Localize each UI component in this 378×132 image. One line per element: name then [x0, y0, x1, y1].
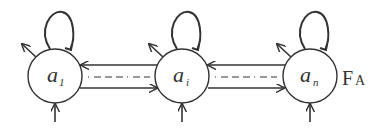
self-loop-arrow-icon	[172, 12, 200, 50]
transitions-ai-an	[208, 65, 285, 88]
fa-main: F	[342, 67, 353, 89]
self-loop-arrow-icon	[300, 12, 328, 50]
arrowhead-icon	[320, 44, 327, 50]
node-label: a	[47, 62, 58, 87]
arrowhead-icon	[65, 44, 72, 50]
node-subscript: i	[186, 76, 189, 88]
fa-diagram: a 1 a i a n	[0, 0, 378, 132]
exit-arrow-icon	[277, 44, 291, 57]
arrowhead-icon	[192, 44, 199, 50]
node-ai: a i	[149, 12, 209, 122]
node-label: a	[300, 62, 311, 87]
exit-arrow-icon	[22, 44, 36, 57]
node-subscript: n	[313, 76, 319, 88]
self-loop-arrow-icon	[45, 12, 73, 50]
node-a1: a 1	[22, 12, 82, 122]
node-label: a	[173, 62, 184, 87]
automaton-label: F A	[342, 67, 366, 89]
node-subscript: 1	[59, 76, 65, 88]
exit-arrow-icon	[149, 44, 163, 57]
node-an: a n	[277, 12, 337, 122]
fa-sub: A	[355, 73, 366, 88]
transitions-a1-ai	[80, 65, 158, 88]
